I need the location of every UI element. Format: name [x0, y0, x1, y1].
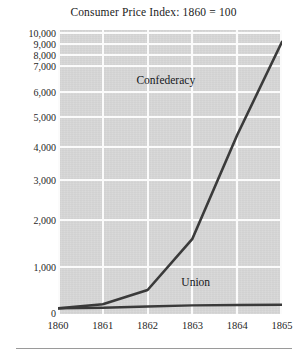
x-axis-tick-label: 1863 — [182, 320, 203, 331]
series-label-union: Union — [181, 276, 210, 288]
y-axis-tick-label: 1,000 — [34, 262, 57, 273]
y-axis-tick-label: 5,000 — [34, 112, 57, 123]
y-axis-tick-label: 2,000 — [34, 215, 57, 226]
y-axis-tick-label: 10,000 — [29, 28, 57, 39]
y-axis-tick-label: 6,000 — [34, 87, 57, 98]
y-axis-tick-label: 9,000 — [34, 39, 57, 50]
x-axis-tick-label: 1862 — [137, 320, 158, 331]
chart-title: Consumer Price Index: 1860 = 100 — [0, 6, 307, 18]
y-axis-tick-label: 7,000 — [34, 61, 57, 72]
x-axis-tick-label: 1865 — [272, 320, 293, 331]
x-axis-tick-label: 1861 — [92, 320, 113, 331]
x-axis-tick-label: 1860 — [48, 320, 69, 331]
bottom-divider — [16, 348, 292, 349]
series-lines — [58, 30, 282, 314]
y-axis-tick-label: 8,000 — [34, 50, 57, 61]
y-axis-tick-label: 0 — [51, 308, 56, 319]
y-axis-tick-label: 4,000 — [34, 142, 57, 153]
chart-figure: Consumer Price Index: 1860 = 100 01,0002… — [0, 0, 307, 357]
plot-area — [58, 30, 282, 314]
x-axis-tick-label: 1864 — [227, 320, 248, 331]
series-label-confederacy: Confederacy — [136, 74, 195, 86]
y-axis-tick-label: 3,000 — [34, 175, 57, 186]
